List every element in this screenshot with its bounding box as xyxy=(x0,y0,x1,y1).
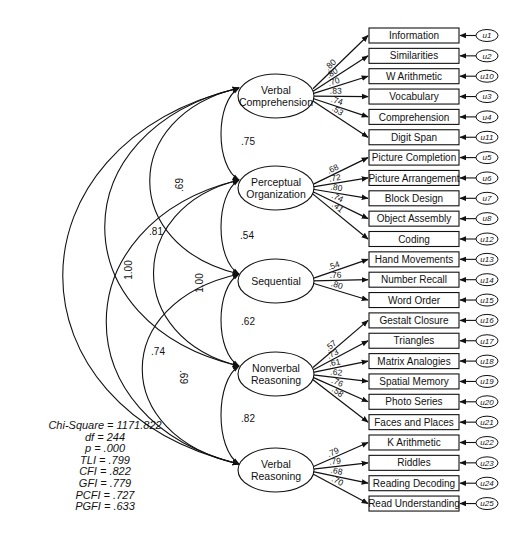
indicator-riddles: Riddles xyxy=(369,455,459,470)
svg-text:u24: u24 xyxy=(480,479,494,488)
factor-correlations: .75.69.811.00.541.00.74.62.69.82 xyxy=(63,88,256,464)
latent-factor-seq: Sequential xyxy=(238,259,314,303)
fit-indices: Chi-Square = 1171.822 df = 244 p = .000 … xyxy=(20,420,190,513)
indicator-word-order: Word Order xyxy=(369,293,459,308)
svg-text:u20: u20 xyxy=(480,398,494,407)
svg-text:u1: u1 xyxy=(483,31,492,40)
correlation-vc-seq: .69 xyxy=(150,88,239,274)
indicator-reading-decoding: Reading Decoding xyxy=(369,476,459,491)
indicator-label: Picture Completion xyxy=(372,152,456,163)
gfi-stat: GFI = .779 xyxy=(20,478,190,490)
error-term-u19: u19 xyxy=(460,375,498,387)
correlation-value: .69 xyxy=(178,370,189,384)
error-term-u22: u22 xyxy=(460,437,498,449)
svg-text:u4: u4 xyxy=(483,113,492,122)
svg-text:u5: u5 xyxy=(483,153,492,162)
indicator-similarities: Similarities xyxy=(369,48,459,63)
latent-factor-nr: NonverbalReasoning xyxy=(238,352,314,396)
svg-text:u14: u14 xyxy=(480,276,494,285)
indicator-label: Object Assembly xyxy=(377,213,451,224)
error-term-u21: u21 xyxy=(460,416,498,428)
latent-label: Reasoning xyxy=(251,374,301,386)
svg-text:u6: u6 xyxy=(483,174,492,183)
indicator-hand-movements: Hand Movements xyxy=(369,252,459,267)
indicator-picture-arrangement: Picture Arrangement xyxy=(368,170,459,185)
indicator-label: Hand Movements xyxy=(375,254,453,265)
error-term-u12: u12 xyxy=(460,233,498,245)
latent-label: Nonverbal xyxy=(252,362,300,374)
indicator-label: Gestalt Closure xyxy=(380,315,449,326)
svg-text:u11: u11 xyxy=(481,133,494,142)
error-term-u16: u16 xyxy=(460,314,498,326)
indicator-label: Picture Arrangement xyxy=(368,173,459,184)
indicator-label: Vocabulary xyxy=(389,91,438,102)
indicator-label: Spatial Memory xyxy=(379,376,448,387)
error-term-u13: u13 xyxy=(460,253,498,265)
correlation-value: .81 xyxy=(149,226,163,237)
error-term-u15: u15 xyxy=(460,294,498,306)
loading-arrow: .53 xyxy=(313,101,368,137)
indicator-label: Digit Span xyxy=(391,132,437,143)
error-term-u10: u10 xyxy=(460,70,498,82)
indicator-label: Comprehension xyxy=(379,112,450,123)
indicator-label: Reading Decoding xyxy=(373,478,455,489)
indicator-read-understanding: Read Understanding xyxy=(368,496,460,511)
error-term-u2: u2 xyxy=(460,50,498,62)
svg-text:u15: u15 xyxy=(480,296,494,305)
svg-text:u12: u12 xyxy=(480,235,494,244)
indicator-number-recall: Number Recall xyxy=(369,272,459,287)
latent-label: Reasoning xyxy=(251,470,301,482)
svg-text:u7: u7 xyxy=(483,194,492,203)
indicator-coding: Coding xyxy=(369,232,459,247)
error-term-u17: u17 xyxy=(460,335,498,347)
indicator-label: Riddles xyxy=(397,457,430,468)
indicator-label: K Arithmetic xyxy=(387,437,440,448)
correlation-value: .74 xyxy=(151,346,165,357)
error-term-u25: u25 xyxy=(460,498,498,510)
correlation-value: .69 xyxy=(174,178,185,192)
indicator-label: Matrix Analogies xyxy=(377,356,450,367)
error-term-u24: u24 xyxy=(460,477,498,489)
error-term-u23: u23 xyxy=(460,457,498,469)
svg-text:u17: u17 xyxy=(480,337,494,346)
svg-text:u25: u25 xyxy=(480,499,494,508)
latent-factor-vr: VerbalReasoning xyxy=(238,448,314,492)
error-term-u8: u8 xyxy=(460,213,498,225)
pgfi-stat: PGFI = .633 xyxy=(20,501,190,513)
error-term-u11: u11 xyxy=(460,131,498,143)
error-term-u1: u1 xyxy=(460,30,498,42)
loading-arrow: .70 xyxy=(313,474,368,504)
indicator-label: Faces and Places xyxy=(374,417,454,428)
correlation-value: .54 xyxy=(240,230,254,241)
indicator-object-assembly: Object Assembly xyxy=(369,211,459,226)
error-term-u5: u5 xyxy=(460,152,498,164)
indicator-information: Information xyxy=(369,28,459,43)
svg-text:u16: u16 xyxy=(480,316,494,325)
indicator-label: W Arithmetic xyxy=(386,71,442,82)
error-term-u4: u4 xyxy=(460,111,498,123)
indicator-label: Number Recall xyxy=(381,274,447,285)
correlation-vc-nr: .81 xyxy=(105,88,239,366)
latent-label: Verbal xyxy=(261,84,291,96)
indicator-faces-and-places: Faces and Places xyxy=(369,415,459,430)
correlation-value: .62 xyxy=(241,316,255,327)
correlation-po-nr: 1.00 xyxy=(154,180,240,366)
latent-label: Perceptual xyxy=(251,176,301,188)
indicator-comprehension: Comprehension xyxy=(369,109,459,124)
svg-text:u10: u10 xyxy=(480,72,494,81)
indicator-label: Coding xyxy=(398,234,430,245)
svg-text:u18: u18 xyxy=(480,357,494,366)
svg-text:u21: u21 xyxy=(480,418,493,427)
loading-arrow: .80 xyxy=(313,278,368,300)
indicator-vocabulary: Vocabulary xyxy=(369,89,459,104)
indicator-label: Word Order xyxy=(388,295,441,306)
svg-text:u8: u8 xyxy=(483,214,492,223)
svg-text:u23: u23 xyxy=(480,459,494,468)
indicator-photo-series: Photo Series xyxy=(369,394,459,409)
indicator-label: Information xyxy=(389,30,439,41)
indicator-spatial-memory: Spatial Memory xyxy=(369,374,459,389)
error-term-u7: u7 xyxy=(460,192,498,204)
indicator-label: Read Understanding xyxy=(368,498,460,509)
correlation-value: 1.00 xyxy=(123,260,134,280)
error-term-u3: u3 xyxy=(460,91,498,103)
